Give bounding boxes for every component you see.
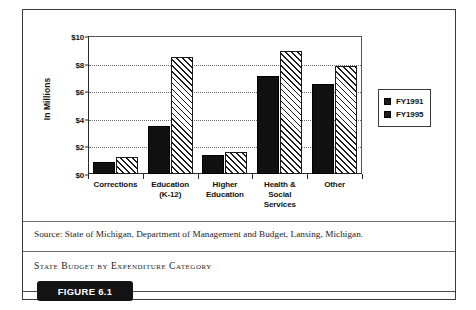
y-tick-label: $4 <box>76 115 85 124</box>
x-tick-mark <box>362 174 363 179</box>
legend-item-fy1995: FY1995 <box>384 108 423 121</box>
legend-label: FY1995 <box>396 110 423 119</box>
x-axis-label-line: Corrections <box>88 180 143 190</box>
x-axis-label: HigherEducation <box>198 180 253 210</box>
y-tick-label: $8 <box>76 60 85 69</box>
y-tick-label: $10 <box>71 33 84 42</box>
legend-swatch-icon <box>384 111 391 118</box>
gridline <box>89 120 361 121</box>
x-axis-label-line: (K-12) <box>143 190 198 200</box>
y-tick-mark <box>85 92 89 93</box>
y-tick-label: $0 <box>76 171 85 180</box>
y-tick-mark <box>85 37 89 38</box>
legend-item-fy1991: FY1991 <box>384 95 423 108</box>
legend-swatch-icon <box>384 98 391 105</box>
y-tick-mark <box>85 119 89 120</box>
figure-caption: State Budget by Expenditure Category <box>34 260 212 271</box>
x-axis-label-line: Education <box>143 180 198 190</box>
x-axis-label-line: Higher <box>198 180 253 190</box>
figure-badge: FIGURE 6.1 <box>37 281 133 301</box>
x-tick-mark <box>307 174 308 179</box>
caption-divider <box>23 251 455 252</box>
y-tick-mark <box>85 147 89 148</box>
gridline <box>89 92 361 93</box>
x-axis-label-line: Health & <box>252 180 307 190</box>
x-axis-ticks <box>88 174 362 179</box>
y-axis-title: In Millions <box>42 59 52 139</box>
gridline <box>89 147 361 148</box>
x-axis-label: Other <box>307 180 362 210</box>
x-axis-label-line: Services <box>252 200 307 210</box>
plot-area: $0$2$4$6$8$10 <box>88 36 362 174</box>
x-axis-labels: CorrectionsEducation(K-12)HigherEducatio… <box>88 180 362 210</box>
y-tick-mark <box>85 64 89 65</box>
chart-region: In Millions $0$2$4$6$8$10 CorrectionsEdu… <box>23 10 455 219</box>
x-axis-label-line: Social <box>252 190 307 200</box>
x-tick-mark <box>198 174 199 179</box>
x-axis-label: Health &SocialServices <box>252 180 307 210</box>
y-tick-label: $2 <box>76 143 85 152</box>
x-axis-label: Education(K-12) <box>143 180 198 210</box>
legend-label: FY1991 <box>396 97 423 106</box>
x-axis-label: Corrections <box>88 180 143 210</box>
x-tick-mark <box>252 174 253 179</box>
x-axis-label-line: Education <box>198 190 253 200</box>
x-axis-label-line: Other <box>307 180 362 190</box>
source-note: Source: State of Michigan, Department of… <box>34 229 444 239</box>
figure-badge-label: FIGURE 6.1 <box>58 286 113 297</box>
x-tick-mark <box>88 174 89 179</box>
chart-legend: FY1991FY1995 <box>378 89 431 127</box>
figure-frame: In Millions $0$2$4$6$8$10 CorrectionsEdu… <box>22 9 456 300</box>
x-tick-mark <box>143 174 144 179</box>
source-divider <box>23 221 455 222</box>
y-tick-label: $6 <box>76 88 85 97</box>
gridline <box>89 65 361 66</box>
